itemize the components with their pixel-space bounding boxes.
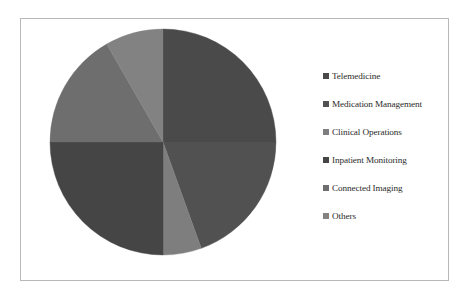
legend-item-label: Others [332,211,356,221]
legend-item[interactable]: Clinical Operations [323,127,451,155]
plot-area: TelemedicineMedication ManagementClinica… [21,19,450,282]
chart-legend: TelemedicineMedication ManagementClinica… [323,71,451,239]
legend-swatch-icon [323,213,329,219]
legend-item-label: Inpatient Monitoring [332,155,407,165]
legend-item-label: Telemedicine [332,71,380,81]
legend-item-label: Clinical Operations [332,127,402,137]
legend-swatch-icon [323,129,329,135]
legend-item[interactable]: Inpatient Monitoring [323,155,451,183]
legend-swatch-icon [323,101,329,107]
legend-swatch-icon [323,185,329,191]
pie-slice[interactable] [163,29,276,142]
chart-frame: TelemedicineMedication ManagementClinica… [20,18,449,281]
legend-item[interactable]: Medication Management [323,99,451,127]
legend-item-label: Connected Imaging [332,183,403,193]
legend-swatch-icon [323,157,329,163]
legend-item-label: Medication Management [332,99,422,109]
legend-item[interactable]: Telemedicine [323,71,451,99]
legend-item[interactable]: Connected Imaging [323,183,451,211]
pie-slice[interactable] [50,142,163,255]
legend-item[interactable]: Others [323,211,451,239]
pie-chart[interactable] [43,27,283,272]
legend-swatch-icon [323,73,329,79]
